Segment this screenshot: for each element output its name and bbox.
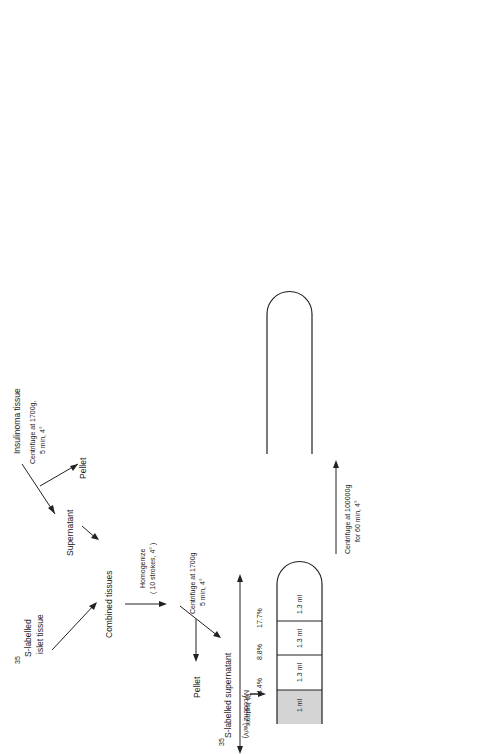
supernatant-1-label: Supernatant: [65, 509, 75, 556]
islet-line2: islet tissue: [35, 614, 45, 654]
arrowhead-icon: [237, 574, 243, 582]
insulinoma-label: Insulinoma tissue: [12, 388, 22, 454]
figure-canvas: Insulinoma tissue Centrifuge at 1700g, 5…: [0, 0, 486, 754]
arrowhead-icon: [193, 654, 199, 662]
arrowhead-icon: [237, 746, 243, 754]
conc-3: 17.7%: [256, 608, 263, 628]
centrifuge-3-line2: for 60 min, 4°: [354, 500, 361, 542]
combined-tissues-label: Combined tissues: [104, 570, 114, 638]
centrifuge-3-line1: Centrifuge at 100000g: [344, 485, 352, 554]
centrifuge-1-line1: Centrifuge at 1700g,: [29, 401, 37, 464]
conc-1: 4.4%: [256, 678, 263, 694]
figure-content: Insulinoma tissue Centrifuge at 1700g, 5…: [12, 292, 361, 754]
rotated-figure: Insulinoma tissue Centrifuge at 1700g, 5…: [0, 0, 486, 754]
fractionation-diagram: Insulinoma tissue Centrifuge at 1700g, 5…: [12, 292, 361, 754]
centrifuge-2-line1: Centrifuge at 1700g: [189, 552, 197, 614]
centrifuge-2-line2: 5 min, 4°: [199, 578, 206, 606]
arrow-to-combined-2: [52, 604, 95, 650]
tube-layer-2: 1.3 ml: [296, 662, 303, 682]
arrow-to-supernatant: [22, 464, 55, 514]
arrowhead-icon: [213, 631, 221, 638]
tube-layer-1: 1 ml: [296, 698, 303, 712]
conc-2: 8.8%: [256, 644, 263, 660]
islet-line1: S-labelled: [23, 619, 33, 657]
arrow-to-labelled-sup: [180, 606, 218, 636]
arrowhead-icon: [333, 460, 339, 468]
arrowhead-icon: [48, 505, 55, 514]
tube-layer-3: 1.3 ml: [296, 628, 303, 648]
pellet-1-label: Pellet: [78, 457, 88, 479]
arrowhead-icon: [70, 464, 78, 471]
tube-layer-4: 1.3 ml: [296, 594, 303, 614]
pellet-2-label: Pellet: [192, 676, 202, 698]
labelled-sup-superscript: 35: [218, 738, 225, 746]
homogenize-line1: Homogenize: [139, 549, 147, 588]
arrowhead-icon: [159, 601, 167, 607]
centrifuge-1-line2: 5 min, 4°: [39, 426, 46, 454]
gradient-label-line2: Nycodenz (w/v): [242, 690, 250, 738]
homogenize-line2: ( 10 strokes, 4° ): [149, 543, 157, 594]
labelled-supernatant-label: S-labelled supernatant: [223, 652, 233, 738]
arrowhead-icon: [91, 533, 99, 540]
isotope-superscript: 35: [14, 656, 21, 664]
